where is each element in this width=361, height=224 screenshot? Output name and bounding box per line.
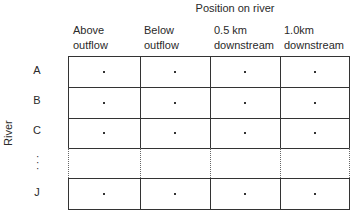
column-header-line2: outflow (144, 38, 179, 53)
column-header-line1: Above (73, 23, 108, 38)
row-axis-label: River (2, 120, 14, 146)
sample-point (103, 132, 105, 134)
sample-point (244, 193, 246, 195)
grid-line (68, 148, 350, 149)
sample-point (174, 71, 176, 73)
grid-line (349, 56, 350, 148)
row-label-a: A (30, 64, 44, 76)
sample-point (314, 193, 316, 195)
sample-point (103, 71, 105, 73)
grid-line (210, 178, 211, 210)
diagram-title: Position on river (140, 2, 330, 14)
sample-point (174, 102, 176, 104)
column-header-above-outflow: Above outflow (73, 23, 108, 53)
grid-line (68, 118, 350, 119)
column-header-below-outflow: Below outflow (144, 23, 179, 53)
grid-line (140, 178, 141, 210)
grid-line (210, 56, 211, 148)
column-header-1-0km-downstream: 1.0km downstream (284, 23, 344, 53)
grid-line (68, 56, 350, 57)
data-table-grid (68, 56, 350, 210)
sample-point (314, 102, 316, 104)
grid-line (68, 209, 350, 210)
grid-line (140, 56, 141, 148)
column-header-line2: downstream (214, 38, 274, 53)
dotted-grid-line (68, 148, 69, 178)
column-header-0-5km-downstream: 0.5 km downstream (214, 23, 274, 53)
dotted-grid-line (280, 148, 281, 178)
column-header-line2: outflow (73, 38, 108, 53)
row-label-c: C (30, 124, 44, 136)
dotted-grid-line (349, 148, 350, 178)
sample-point (103, 102, 105, 104)
grid-line (349, 178, 350, 210)
column-header-line1: Below (144, 23, 179, 38)
sample-point (314, 132, 316, 134)
sample-point (314, 71, 316, 73)
row-label-j: J (30, 186, 44, 198)
grid-line (68, 56, 69, 148)
dotted-grid-line (140, 148, 141, 178)
sample-point (244, 132, 246, 134)
column-header-line1: 1.0km (284, 23, 344, 38)
grid-line (280, 56, 281, 148)
grid-line (280, 178, 281, 210)
grid-line (68, 87, 350, 88)
sample-point (103, 193, 105, 195)
sample-point (174, 193, 176, 195)
sample-point (244, 71, 246, 73)
row-label-b: B (30, 94, 44, 106)
sample-point (244, 102, 246, 104)
grid-line (68, 178, 69, 210)
row-ellipsis: ··· (36, 154, 39, 172)
dotted-grid-line (210, 148, 211, 178)
column-header-line2: downstream (284, 38, 344, 53)
column-header-line1: 0.5 km (214, 23, 274, 38)
sample-point (174, 132, 176, 134)
grid-line (68, 178, 350, 179)
